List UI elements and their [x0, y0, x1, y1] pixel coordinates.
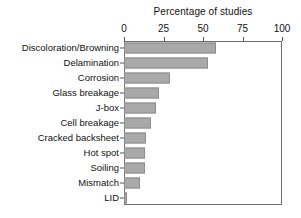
bar	[124, 58, 208, 69]
bar	[124, 177, 140, 188]
category-label: Cracked backsheet	[38, 133, 119, 143]
bar	[124, 192, 127, 203]
x-axis-title: Percentage of studies	[124, 6, 282, 17]
category-label: Glass breakage	[52, 88, 119, 98]
category-label: Hot spot	[84, 148, 119, 158]
category-label: J-box	[96, 103, 119, 113]
x-axis-tick-labels: 0 25 50 75 100	[0, 23, 301, 35]
category-label: Corrosion	[78, 74, 119, 84]
bar-row: LID	[0, 190, 301, 205]
bar	[124, 162, 145, 173]
bar-chart-figure: Percentage of studies 0 25 50 75 100 Dis…	[0, 0, 301, 218]
category-label: LID	[104, 193, 119, 203]
bar-row: Glass breakage	[0, 86, 301, 101]
bar	[124, 43, 216, 54]
bar-row: Cell breakage	[0, 116, 301, 131]
bar-row: Corrosion	[0, 71, 301, 86]
category-label: Soiling	[90, 163, 119, 173]
x-tick-label-25: 25	[158, 23, 169, 34]
bar-row: Hot spot	[0, 145, 301, 160]
bar-rows: Discoloration/BrowningDelaminationCorros…	[0, 41, 301, 205]
bar	[124, 147, 145, 158]
bar-row: Cracked backsheet	[0, 130, 301, 145]
category-label: Mismatch	[78, 178, 119, 188]
bar-row: Soiling	[0, 160, 301, 175]
bar	[124, 117, 151, 128]
bar-row: Mismatch	[0, 175, 301, 190]
category-label: Discoloration/Browning	[22, 44, 119, 54]
x-tick-label-100: 100	[274, 23, 291, 34]
bar	[124, 88, 159, 99]
x-tick-label-75: 75	[237, 23, 248, 34]
x-tick-label-50: 50	[197, 23, 208, 34]
bar	[124, 132, 146, 143]
category-label: Delamination	[64, 59, 119, 69]
bar-row: J-box	[0, 101, 301, 116]
bar	[124, 103, 156, 114]
bar-row: Delamination	[0, 56, 301, 71]
bar	[124, 73, 170, 84]
bar-row: Discoloration/Browning	[0, 41, 301, 56]
category-label: Cell breakage	[60, 118, 119, 128]
x-tick-label-0: 0	[121, 23, 127, 34]
